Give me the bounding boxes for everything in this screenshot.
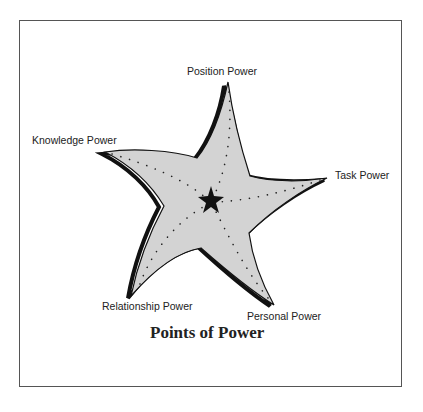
label-task-power: Task Power xyxy=(335,169,389,181)
starfish-illustration xyxy=(0,0,423,412)
label-knowledge-power: Knowledge Power xyxy=(32,134,117,146)
label-personal-power: Personal Power xyxy=(247,310,321,322)
diagram-title: Points of Power xyxy=(150,323,264,343)
label-relationship-power: Relationship Power xyxy=(102,300,192,312)
label-position-power: Position Power xyxy=(187,65,257,77)
